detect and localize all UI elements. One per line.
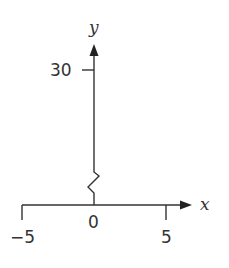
coordinate-diagram: y x 30 −5 0 5 bbox=[0, 0, 229, 268]
y-axis-line bbox=[88, 55, 99, 205]
y-axis-arrow-icon bbox=[90, 44, 99, 56]
x-tick-label-5: 5 bbox=[161, 227, 172, 247]
x-tick-label-neg5: −5 bbox=[10, 227, 35, 247]
x-axis-label: x bbox=[200, 194, 210, 214]
y-tick-label-30: 30 bbox=[50, 60, 72, 80]
x-axis-arrow-icon bbox=[180, 201, 192, 210]
y-axis-label: y bbox=[88, 17, 99, 37]
x-tick-label-0: 0 bbox=[88, 212, 99, 232]
